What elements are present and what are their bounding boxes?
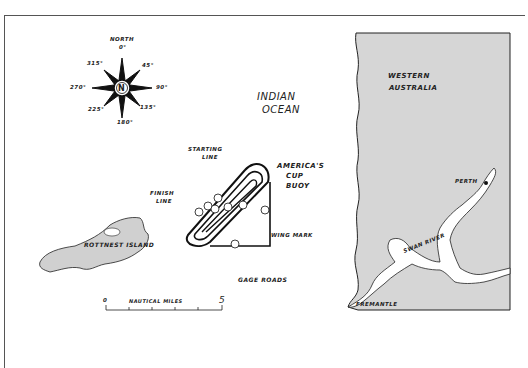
- perth-dot: [484, 181, 488, 185]
- compass-center-n: N: [118, 84, 125, 93]
- fremantle-label: FREMANTLE: [356, 301, 398, 307]
- bearing-45: 45°: [142, 62, 154, 68]
- scale-label: NAUTICAL MILES: [129, 298, 183, 304]
- north-label: NORTH: [110, 36, 134, 42]
- starting-line-2: LINE: [202, 154, 218, 160]
- island-label: ROTTNEST ISLAND: [84, 241, 154, 248]
- scale-end: 5: [219, 295, 225, 305]
- bearing-225: 225°: [88, 106, 104, 112]
- bearing-270: 270°: [70, 84, 86, 90]
- starting-line-1: STARTING: [188, 146, 222, 152]
- finish-line-1: FINISH: [150, 190, 174, 196]
- bearing-90: 90°: [156, 84, 168, 90]
- buoy-3: BUOY: [286, 182, 310, 190]
- buoy-1: AMERICA'S: [277, 162, 324, 170]
- bearing-180: 180°: [117, 119, 133, 125]
- scale-bar: [106, 305, 222, 310]
- gage-roads: GAGE ROADS: [238, 276, 287, 283]
- bearing-0: 0°: [119, 44, 127, 50]
- finish-line-2: LINE: [156, 198, 172, 204]
- region-label-1: WESTERN: [388, 72, 430, 80]
- perth-label: PERTH: [455, 178, 478, 184]
- scale-start: 0: [103, 297, 107, 303]
- bearing-315: 315°: [87, 60, 103, 66]
- wing-mark: WING MARK: [271, 232, 313, 238]
- buoy-2: CUP: [286, 172, 303, 180]
- ocean-label-2: OCEAN: [262, 104, 300, 115]
- region-label-2: AUSTRALIA: [389, 84, 437, 92]
- bearing-135: 135°: [140, 104, 156, 110]
- ocean-label-1: INDIAN: [257, 91, 295, 102]
